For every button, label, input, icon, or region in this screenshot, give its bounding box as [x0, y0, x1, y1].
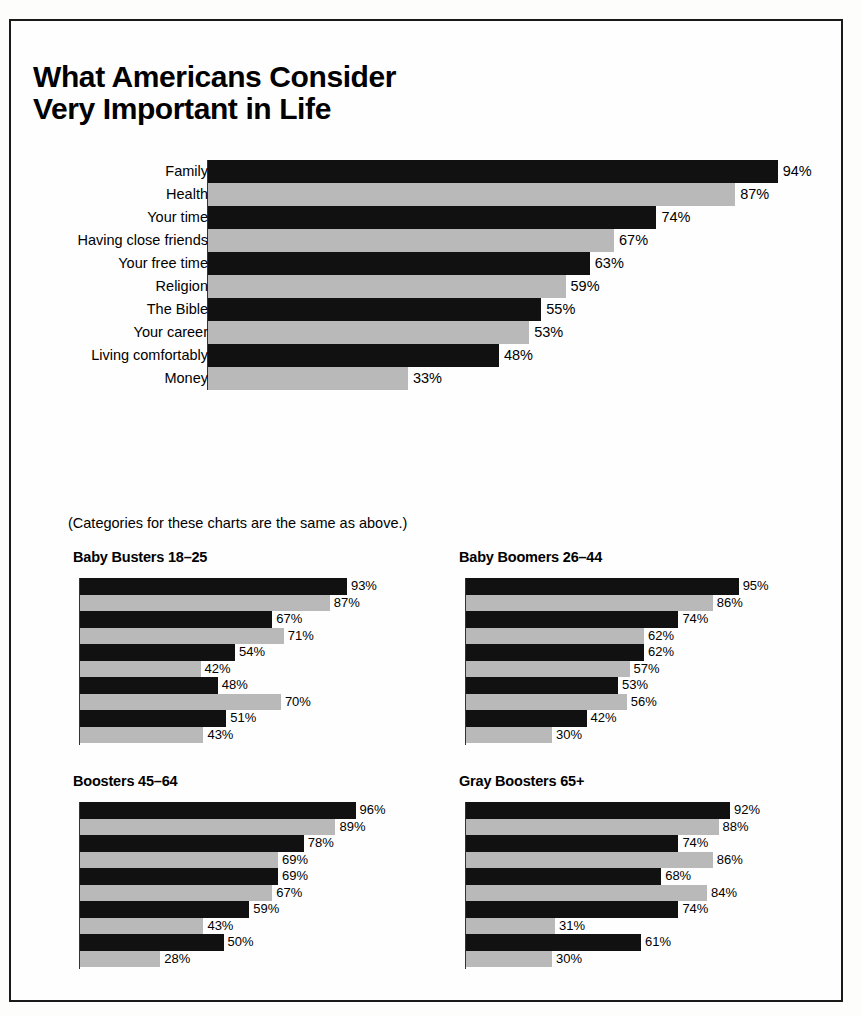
subchart-value-label: 51% [226, 710, 256, 727]
subchart-title: Baby Busters 18–25 [73, 549, 207, 565]
subchart-value-label: 56% [627, 694, 657, 711]
main-chart-row: Your time74% [11, 206, 845, 229]
main-chart-bar [208, 160, 778, 183]
subchart-row: 86% [454, 595, 844, 612]
page-title-line-2: Very Important in Life [33, 93, 633, 125]
subchart-value-label: 43% [203, 727, 233, 744]
subchart-bar [466, 661, 630, 678]
subchart-bar [80, 868, 278, 885]
subchart-bar [80, 819, 335, 836]
subchart-bar [466, 727, 552, 744]
subchart-bar [80, 578, 347, 595]
subchart-bar [466, 868, 661, 885]
subchart-row: 74% [454, 611, 844, 628]
subchart-row: 43% [68, 727, 458, 744]
subchart-value-label: 59% [249, 901, 279, 918]
subchart-bar [80, 727, 203, 744]
subchart-row: 43% [68, 918, 458, 935]
main-chart-category-label: Family [165, 162, 208, 181]
subchart-row: 31% [454, 918, 844, 935]
subchart-value-label: 86% [713, 595, 743, 612]
subchart-bar [466, 578, 739, 595]
subchart-row: 96% [68, 802, 458, 819]
subchart-bar [80, 595, 330, 612]
main-chart-value-label: 67% [614, 231, 648, 250]
subchart-value-label: 50% [224, 934, 254, 951]
main-chart-row: Money33% [11, 367, 845, 390]
subchart-value-label: 69% [278, 868, 308, 885]
subchart-row: 62% [454, 644, 844, 661]
subchart-bar [466, 819, 719, 836]
subchart-bar [466, 644, 644, 661]
main-chart-category-label: Your time [147, 208, 208, 227]
main-chart-bar [208, 367, 408, 390]
main-chart-bar [208, 275, 566, 298]
main-chart-row: Your free time63% [11, 252, 845, 275]
subchart-row: 95% [454, 578, 844, 595]
subchart-row: 78% [68, 835, 458, 852]
subchart-value-label: 84% [707, 885, 737, 902]
main-chart-category-label: Living comfortably [91, 346, 208, 365]
subchart-row: 30% [454, 951, 844, 968]
subchart-value-label: 28% [160, 951, 190, 968]
subchart-value-label: 71% [284, 628, 314, 645]
subchart-row: 62% [454, 628, 844, 645]
subchart-value-label: 74% [678, 901, 708, 918]
main-chart-category-label: Your career [134, 323, 208, 342]
subchart-row: 92% [454, 802, 844, 819]
subchart-rows: 93%87%67%71%54%42%48%70%51%43% [68, 578, 458, 743]
subchart-bar [80, 951, 160, 968]
subchart-bar [80, 644, 235, 661]
subchart-row: 87% [68, 595, 458, 612]
subchart-bar [466, 918, 555, 935]
subchart-row: 28% [68, 951, 458, 968]
subchart-rows: 92%88%74%86%68%84%74%31%61%30% [454, 802, 844, 967]
subchart-plot: 95%86%74%62%62%57%53%56%42%30% [454, 578, 844, 745]
subchart-bar [80, 694, 281, 711]
subchart-row: 42% [454, 710, 844, 727]
subchart-value-label: 30% [552, 951, 582, 968]
subchart-row: 59% [68, 901, 458, 918]
subchart-bar [466, 951, 552, 968]
subchart-value-label: 42% [201, 661, 231, 678]
subchart-value-label: 68% [661, 868, 691, 885]
subchart-bar [466, 611, 678, 628]
subchart-bar [80, 918, 203, 935]
subchart-plot: 92%88%74%86%68%84%74%31%61%30% [454, 802, 844, 969]
subchart-row: 71% [68, 628, 458, 645]
subchart-row: 84% [454, 885, 844, 902]
main-chart-category-label: Religion [156, 277, 208, 296]
main-chart-bar [208, 321, 529, 344]
subchart-value-label: 74% [678, 611, 708, 628]
main-chart-value-label: 53% [529, 323, 563, 342]
subchart-bar [466, 677, 618, 694]
subchart-bar [466, 694, 627, 711]
main-chart-value-label: 59% [566, 277, 600, 296]
subchart-bar [466, 628, 644, 645]
page-title-line-1: What Americans Consider [33, 61, 633, 93]
main-chart-row: Religion59% [11, 275, 845, 298]
subchart-row: 56% [454, 694, 844, 711]
subchart-value-label: 42% [587, 710, 617, 727]
main-chart-bar [208, 252, 590, 275]
main-bar-chart: Family94%Health87%Your time74%Having clo… [11, 160, 845, 470]
main-chart-row: The Bible55% [11, 298, 845, 321]
subchart-row: 70% [68, 694, 458, 711]
subchart-plot: 93%87%67%71%54%42%48%70%51%43% [68, 578, 458, 745]
subchart-bar [466, 901, 678, 918]
subchart-bar [466, 934, 641, 951]
subchart-row: 86% [454, 852, 844, 869]
subchart-value-label: 62% [644, 644, 674, 661]
subchart-value-label: 95% [739, 578, 769, 595]
subchart-bar [80, 710, 226, 727]
main-chart-value-label: 87% [735, 185, 769, 204]
subchart-bar [80, 901, 249, 918]
subchart-row: 54% [68, 644, 458, 661]
subchart-row: 67% [68, 885, 458, 902]
poster-frame: What Americans Consider Very Important i… [9, 19, 843, 1002]
subchart-value-label: 57% [630, 661, 660, 678]
subchart-bar [80, 852, 278, 869]
main-chart-row: Your career53% [11, 321, 845, 344]
subchart-value-label: 53% [618, 677, 648, 694]
main-chart-value-label: 74% [656, 208, 690, 227]
